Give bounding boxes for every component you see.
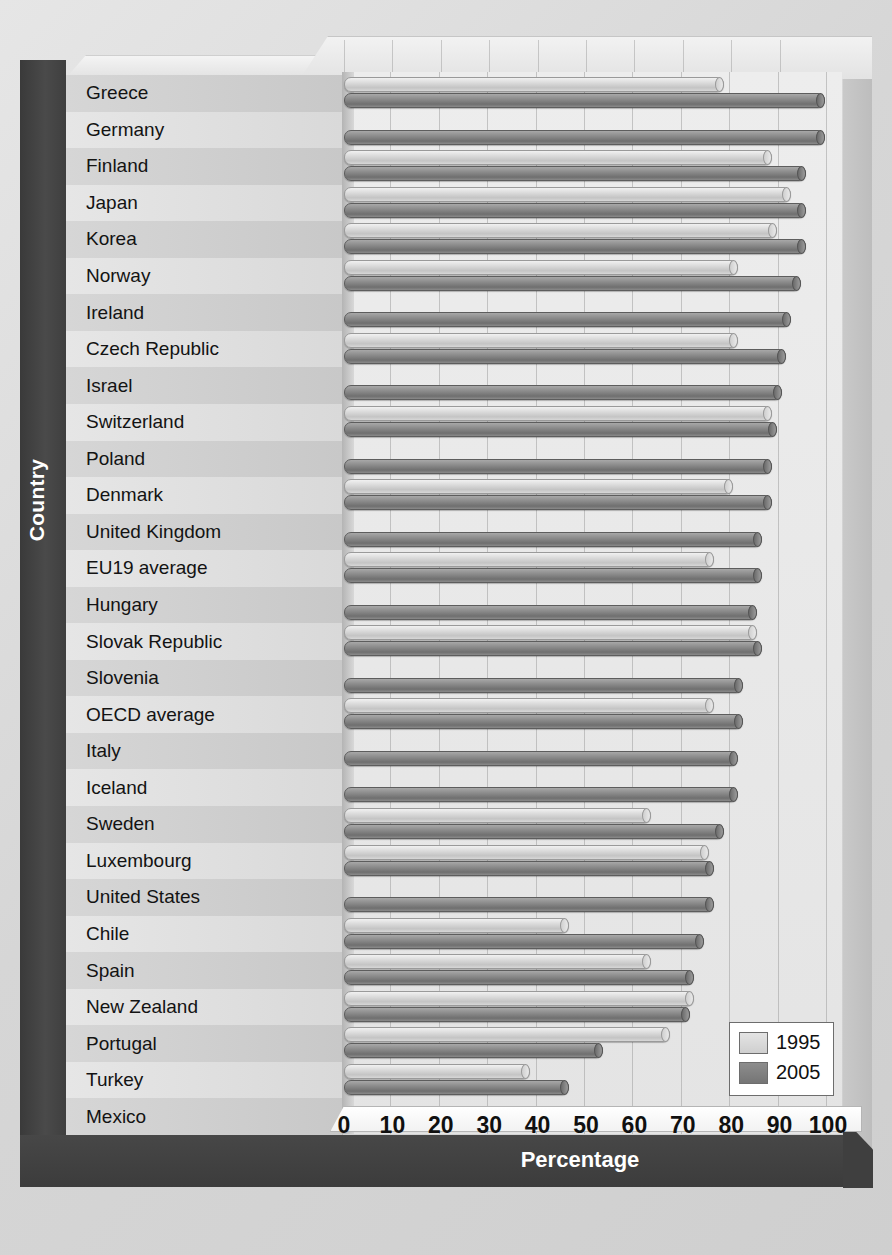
x-tick-label: 30 (476, 1112, 502, 1139)
bar-end-cap (560, 918, 569, 933)
bar-1995[interactable] (344, 223, 777, 238)
bar-end-cap (782, 187, 791, 202)
bar-end-cap (560, 1080, 569, 1095)
bar-1995[interactable] (344, 260, 738, 275)
category-row: Mexico (66, 1098, 342, 1135)
category-row: Greece (66, 75, 342, 112)
bar-1995[interactable] (344, 954, 651, 969)
legend-swatch-2005 (739, 1062, 768, 1084)
category-label: Slovak Republic (86, 631, 222, 653)
bar-2005[interactable] (344, 568, 762, 583)
legend-item-2005[interactable]: 2005 (739, 1061, 821, 1084)
bar-1995[interactable] (344, 150, 772, 165)
bar-1995[interactable] (344, 991, 694, 1006)
category-row: Japan (66, 185, 342, 222)
bar-end-cap (763, 406, 772, 421)
bar-2005[interactable] (344, 751, 738, 766)
bar-2005[interactable] (344, 641, 762, 656)
bar-end-cap (797, 203, 806, 218)
bar-end-cap (763, 495, 772, 510)
category-row: United States (66, 879, 342, 916)
category-row: Slovak Republic (66, 623, 342, 660)
category-row: Finland (66, 148, 342, 185)
bar-2005[interactable] (344, 861, 714, 876)
x-axis-title: Percentage (430, 1147, 730, 1173)
category-row: Germany (66, 112, 342, 149)
bar-2005[interactable] (344, 970, 694, 985)
bar-end-cap (748, 625, 757, 640)
legend-label-1995: 1995 (776, 1031, 821, 1054)
bar-1995[interactable] (344, 333, 738, 348)
chart-legend: 1995 2005 (729, 1022, 834, 1096)
category-label: United States (86, 886, 200, 908)
bar-1995[interactable] (344, 808, 651, 823)
bar-1995[interactable] (344, 1027, 670, 1042)
bar-2005[interactable] (344, 824, 724, 839)
bar-end-cap (705, 861, 714, 876)
category-row: Turkey (66, 1062, 342, 1099)
bar-1995[interactable] (344, 845, 709, 860)
bar-end-cap (642, 808, 651, 823)
bar-2005[interactable] (344, 203, 806, 218)
category-row: Slovenia (66, 660, 342, 697)
bar-2005[interactable] (344, 276, 801, 291)
bar-2005[interactable] (344, 605, 757, 620)
bar-end-cap (729, 751, 738, 766)
category-label: Italy (86, 740, 121, 762)
category-label: Norway (86, 265, 150, 287)
category-row: Chile (66, 916, 342, 953)
bar-2005[interactable] (344, 349, 786, 364)
bar-2005[interactable] (344, 422, 777, 437)
bar-1995[interactable] (344, 552, 714, 567)
bar-1995[interactable] (344, 187, 791, 202)
category-label: OECD average (86, 704, 215, 726)
bar-2005[interactable] (344, 897, 714, 912)
category-label: Denmark (86, 484, 163, 506)
x-tick-label: 10 (380, 1112, 406, 1139)
category-label: Iceland (86, 777, 147, 799)
bar-end-cap (773, 385, 782, 400)
bar-2005[interactable] (344, 1080, 569, 1095)
bar-1995[interactable] (344, 1064, 530, 1079)
category-row: New Zealand (66, 989, 342, 1026)
bar-2005[interactable] (344, 459, 772, 474)
bar-2005[interactable] (344, 1043, 603, 1058)
bar-end-cap (594, 1043, 603, 1058)
bar-1995[interactable] (344, 479, 733, 494)
category-label: Switzerland (86, 411, 184, 433)
bar-2005[interactable] (344, 495, 772, 510)
bar-2005[interactable] (344, 312, 791, 327)
x-tick-label: 80 (718, 1112, 744, 1139)
bar-2005[interactable] (344, 93, 825, 108)
legend-item-1995[interactable]: 1995 (739, 1031, 821, 1054)
category-row: OECD average (66, 696, 342, 733)
bar-2005[interactable] (344, 787, 738, 802)
legend-label-2005: 2005 (776, 1061, 821, 1084)
bar-end-cap (729, 260, 738, 275)
bar-end-cap (782, 312, 791, 327)
bar-1995[interactable] (344, 77, 724, 92)
bar-2005[interactable] (344, 934, 704, 949)
category-row: Switzerland (66, 404, 342, 441)
bar-2005[interactable] (344, 166, 806, 181)
bar-2005[interactable] (344, 239, 806, 254)
bar-end-cap (734, 714, 743, 729)
category-row: Italy (66, 733, 342, 770)
bar-end-cap (797, 166, 806, 181)
bar-2005[interactable] (344, 385, 782, 400)
bar-2005[interactable] (344, 532, 762, 547)
category-label: Luxembourg (86, 850, 192, 872)
category-label: Mexico (86, 1106, 146, 1128)
bar-2005[interactable] (344, 714, 743, 729)
bar-1995[interactable] (344, 698, 714, 713)
bar-2005[interactable] (344, 130, 825, 145)
bar-1995[interactable] (344, 406, 772, 421)
category-row: Israel (66, 367, 342, 404)
bar-1995[interactable] (344, 625, 757, 640)
bar-end-cap (661, 1027, 670, 1042)
bar-end-cap (521, 1064, 530, 1079)
category-row: Norway (66, 258, 342, 295)
bar-2005[interactable] (344, 678, 743, 693)
bar-1995[interactable] (344, 918, 569, 933)
bar-2005[interactable] (344, 1007, 690, 1022)
